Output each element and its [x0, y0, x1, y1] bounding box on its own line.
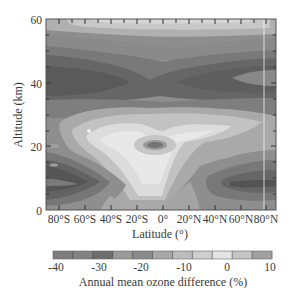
y-tick-40: 40 — [31, 78, 43, 90]
y-tick-0: 0 — [36, 205, 42, 217]
colorbar-segment — [133, 251, 153, 259]
colorbar-segment — [252, 251, 272, 259]
x-tick-60s: 60°S — [74, 213, 97, 225]
x-tick-80s: 80°S — [48, 213, 71, 225]
cbar-tick-10: 10 — [264, 261, 276, 273]
cbar-tick-minus30: -30 — [91, 261, 107, 273]
x-tick-60n: 60°N — [229, 213, 254, 225]
colorbar-segment — [212, 251, 232, 259]
x-tick-40n: 40°N — [203, 213, 228, 225]
y-tick-60: 60 — [31, 14, 43, 26]
colorbar-segment — [192, 251, 212, 259]
cbar-tick-minus10: -10 — [176, 261, 192, 273]
colorbar-segment — [153, 251, 173, 259]
colorbar-segment — [93, 251, 113, 259]
x-tick-40s: 40°S — [100, 213, 123, 225]
y-tick-20: 20 — [31, 141, 43, 153]
cbar-tick-minus20: -20 — [133, 261, 149, 273]
y-axis-title: Altitude (km) — [11, 82, 25, 148]
x-axis-title: Latitude (°) — [132, 227, 188, 241]
cbar-tick-minus40: -40 — [48, 261, 64, 273]
colorbar-segment — [172, 251, 192, 259]
colorbar-tick-labels: -40 -30 -20 -10 0 10 — [48, 261, 276, 273]
x-tick-20n: 20°N — [177, 213, 202, 225]
cbar-tick-0: 0 — [224, 261, 230, 273]
colorbar-segment — [113, 251, 133, 259]
x-tick-20s: 20°S — [126, 213, 149, 225]
x-tick-80n: 80°N — [254, 213, 279, 225]
ozone-contour-figure: 0 20 40 60 Altitude (km) 80°S 60°S 40°S … — [0, 0, 296, 288]
contour-plot-area — [46, 19, 276, 210]
colorbar-segment — [53, 251, 73, 259]
colorbar — [53, 251, 272, 259]
y-tick-labels: 0 20 40 60 — [31, 14, 43, 217]
x-tick-labels: 80°S 60°S 40°S 20°S 0° 20°N 40°N 60°N 80… — [48, 213, 279, 225]
colorbar-segment — [73, 251, 93, 259]
colorbar-segment — [232, 251, 252, 259]
x-tick-0: 0° — [158, 213, 169, 225]
colorbar-title: Annual mean ozone difference (%) — [79, 275, 247, 288]
